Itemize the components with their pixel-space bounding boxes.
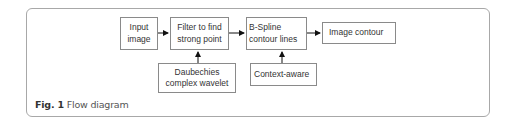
node-daubechies: Daubechiescomplex wavelet [158, 63, 236, 93]
node-filter: Filter to findstrong point [170, 17, 229, 50]
node-label: contour lines [249, 34, 297, 44]
node-label: complex wavelet [166, 78, 229, 88]
node-image-contour: Image contour [322, 22, 396, 44]
figure-caption: Fig. 1 Flow diagram [35, 99, 129, 110]
node-label: strong point [177, 34, 221, 44]
node-input-image: Inputimage [120, 17, 158, 50]
node-label: Daubechies [175, 67, 220, 77]
node-label: Image contour [329, 27, 383, 39]
node-label: Input [130, 22, 149, 32]
caption-text: Flow diagram [67, 99, 129, 110]
node-label: Context-aware [254, 69, 309, 81]
node-label: B-Spline [249, 22, 281, 32]
caption-label: Fig. 1 [35, 99, 64, 110]
node-label: image [127, 34, 150, 44]
node-bspline: B-Splinecontour lines [246, 17, 307, 50]
node-label: Filter to find [177, 22, 221, 32]
node-context-aware: Context-aware [250, 63, 317, 86]
